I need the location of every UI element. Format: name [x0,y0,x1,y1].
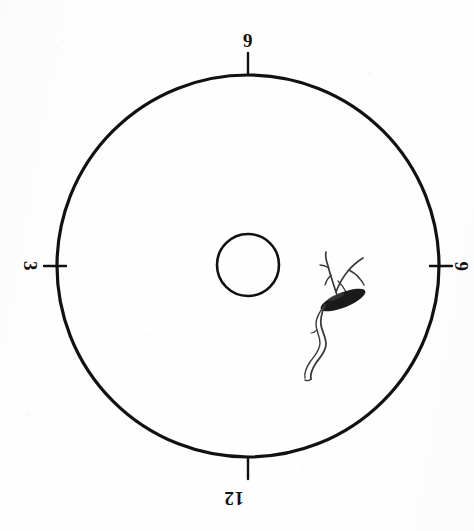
outer-dial-circle [57,75,439,457]
figure-canvas [0,0,474,531]
dial-label-3: 3 [21,261,40,271]
dial-label-9: 9 [243,31,253,50]
inner-hub-circle [217,234,279,296]
dial-label-12: 12 [224,489,244,508]
scan-sheet: 9 3 6 12 [0,0,474,531]
specimen-body [318,284,368,316]
specimen-sketch [305,252,368,381]
dial-label-6: 6 [452,261,471,271]
specimen-lower-tail [305,305,326,381]
